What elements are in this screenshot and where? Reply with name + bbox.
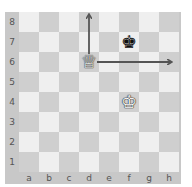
square-a8[interactable]: [19, 12, 39, 32]
square-g4[interactable]: [139, 92, 159, 112]
square-g2[interactable]: [139, 132, 159, 152]
white-king-icon[interactable]: ♔: [119, 92, 139, 112]
square-e4[interactable]: [99, 92, 119, 112]
square-a6[interactable]: [19, 52, 39, 72]
square-a4[interactable]: [19, 92, 39, 112]
square-e5[interactable]: [99, 72, 119, 92]
square-h1[interactable]: [159, 152, 179, 172]
square-f2[interactable]: [119, 132, 139, 152]
square-h7[interactable]: [159, 32, 179, 52]
square-b3[interactable]: [39, 112, 59, 132]
square-e7[interactable]: [99, 32, 119, 52]
square-c6[interactable]: [59, 52, 79, 72]
square-b6[interactable]: [39, 52, 59, 72]
square-h3[interactable]: [159, 112, 179, 132]
square-c1[interactable]: [59, 152, 79, 172]
file-label-f: f: [119, 172, 139, 184]
file-label-d: d: [79, 172, 99, 184]
square-e6[interactable]: [99, 52, 119, 72]
square-b4[interactable]: [39, 92, 59, 112]
rank-label-2: 2: [5, 132, 19, 152]
square-a7[interactable]: [19, 32, 39, 52]
square-h6[interactable]: [159, 52, 179, 72]
file-label-a: a: [19, 172, 39, 184]
rank-label-7: 7: [5, 32, 19, 52]
square-b7[interactable]: [39, 32, 59, 52]
square-g8[interactable]: [139, 12, 159, 32]
rank-label-8: 8: [5, 12, 19, 32]
square-c4[interactable]: [59, 92, 79, 112]
square-g5[interactable]: [139, 72, 159, 92]
square-b1[interactable]: [39, 152, 59, 172]
rank-label-4: 4: [5, 92, 19, 112]
square-d7[interactable]: [79, 32, 99, 52]
square-d5[interactable]: [79, 72, 99, 92]
chess-board[interactable]: [19, 12, 179, 172]
square-c8[interactable]: [59, 12, 79, 32]
rank-label-1: 1: [5, 152, 19, 172]
square-f1[interactable]: [119, 152, 139, 172]
file-label-g: g: [139, 172, 159, 184]
square-c5[interactable]: [59, 72, 79, 92]
square-h5[interactable]: [159, 72, 179, 92]
square-b2[interactable]: [39, 132, 59, 152]
square-h8[interactable]: [159, 12, 179, 32]
file-label-b: b: [39, 172, 59, 184]
square-f3[interactable]: [119, 112, 139, 132]
square-f5[interactable]: [119, 72, 139, 92]
square-f6[interactable]: [119, 52, 139, 72]
square-h2[interactable]: [159, 132, 179, 152]
square-f8[interactable]: [119, 12, 139, 32]
black-king-icon[interactable]: ♚: [119, 32, 139, 52]
square-e8[interactable]: [99, 12, 119, 32]
square-g6[interactable]: [139, 52, 159, 72]
square-c3[interactable]: [59, 112, 79, 132]
square-g7[interactable]: [139, 32, 159, 52]
rank-label-6: 6: [5, 52, 19, 72]
square-a1[interactable]: [19, 152, 39, 172]
white-queen-icon[interactable]: ♕: [79, 52, 99, 72]
square-b8[interactable]: [39, 12, 59, 32]
square-d8[interactable]: [79, 12, 99, 32]
square-e3[interactable]: [99, 112, 119, 132]
square-e2[interactable]: [99, 132, 119, 152]
rank-label-5: 5: [5, 72, 19, 92]
square-g3[interactable]: [139, 112, 159, 132]
square-d4[interactable]: [79, 92, 99, 112]
square-h4[interactable]: [159, 92, 179, 112]
square-d2[interactable]: [79, 132, 99, 152]
rank-label-3: 3: [5, 112, 19, 132]
square-d3[interactable]: [79, 112, 99, 132]
square-c2[interactable]: [59, 132, 79, 152]
square-d1[interactable]: [79, 152, 99, 172]
square-a3[interactable]: [19, 112, 39, 132]
square-g1[interactable]: [139, 152, 159, 172]
square-a2[interactable]: [19, 132, 39, 152]
square-e1[interactable]: [99, 152, 119, 172]
square-c7[interactable]: [59, 32, 79, 52]
file-label-c: c: [59, 172, 79, 184]
square-b5[interactable]: [39, 72, 59, 92]
file-label-e: e: [99, 172, 119, 184]
file-label-h: h: [159, 172, 179, 184]
square-a5[interactable]: [19, 72, 39, 92]
